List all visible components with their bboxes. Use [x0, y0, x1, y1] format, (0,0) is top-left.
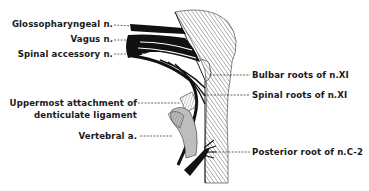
label-uppermost-attachment-line2: denticulate ligament: [34, 110, 137, 120]
label-posterior-root: Posterior root of n.C-2: [252, 147, 363, 157]
label-uppermost-attachment-line1: Uppermost attachment of: [10, 98, 137, 108]
label-spinal-accessory: Spinal accessory n.: [18, 49, 113, 59]
glossopharyngeal-nerve: [130, 24, 186, 34]
label-vertebral: Vertebral a.: [78, 131, 137, 141]
label-spinal-roots: Spinal roots of n.XI: [252, 90, 347, 100]
label-glossopharyngeal: Glossopharyngeal n.: [12, 19, 113, 29]
label-vagus: Vagus n.: [70, 34, 113, 44]
leader-glossopharyngeal: [114, 25, 132, 26]
label-bulbar-roots: Bulbar roots of n.XI: [252, 70, 349, 80]
